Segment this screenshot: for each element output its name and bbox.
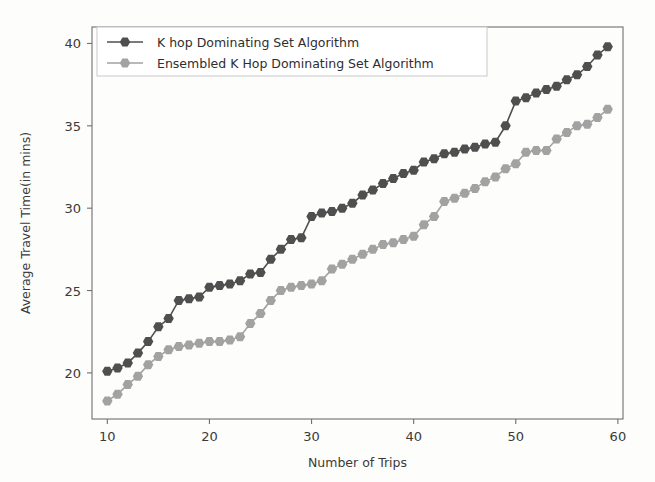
x-tick-label: 10 — [99, 429, 116, 444]
data-point-marker — [470, 143, 480, 152]
data-point-marker — [347, 255, 357, 264]
data-point-marker — [174, 342, 184, 351]
axis-ticks-group: 1020304050602025303540 — [64, 36, 626, 444]
x-tick-label: 20 — [201, 429, 218, 444]
series-1 — [102, 105, 613, 406]
data-point-marker — [337, 260, 347, 269]
data-point-marker — [235, 332, 245, 341]
data-point-marker — [449, 194, 459, 203]
data-point-marker — [174, 296, 184, 305]
data-point-marker — [225, 279, 235, 288]
x-axis-label: Number of Trips — [308, 455, 407, 470]
data-point-marker — [225, 335, 235, 344]
x-tick-label: 50 — [508, 429, 525, 444]
data-point-marker — [337, 204, 347, 213]
data-point-marker — [357, 250, 367, 259]
data-point-marker — [439, 197, 449, 206]
data-point-marker — [296, 281, 306, 290]
data-point-marker — [480, 139, 490, 148]
y-tick-label: 20 — [64, 366, 81, 381]
data-point-marker — [306, 279, 316, 288]
legend-label: K hop Dominating Set Algorithm — [157, 35, 359, 50]
data-point-marker — [449, 148, 459, 157]
data-point-marker — [398, 169, 408, 178]
y-axis-label: Average Travel Time(in mins) — [18, 132, 33, 314]
data-point-marker — [398, 235, 408, 244]
data-point-marker — [286, 283, 296, 292]
series-0 — [102, 42, 613, 375]
data-point-marker — [102, 367, 112, 376]
data-point-marker — [511, 97, 521, 106]
plot-frame — [92, 27, 623, 419]
data-point-marker — [317, 209, 327, 218]
data-point-marker — [255, 268, 265, 277]
y-tick-label: 35 — [64, 119, 81, 134]
data-point-marker — [388, 174, 398, 183]
data-point-marker — [214, 337, 224, 346]
chart-legend[interactable]: K hop Dominating Set AlgorithmEnsembled … — [97, 27, 487, 76]
legend-label: Ensembled K Hop Dominating Set Algorithm — [157, 56, 434, 71]
data-point-marker — [439, 149, 449, 158]
data-point-marker — [378, 240, 388, 249]
data-point-marker — [541, 85, 551, 94]
data-point-marker — [460, 144, 470, 153]
data-point-marker — [500, 121, 510, 130]
data-point-marker — [184, 294, 194, 303]
data-point-marker — [490, 138, 500, 147]
data-point-marker — [204, 337, 214, 346]
data-point-marker — [327, 207, 337, 216]
plot-axes — [92, 27, 623, 419]
data-point-marker — [531, 146, 541, 155]
data-point-marker — [460, 189, 470, 198]
data-point-marker — [194, 339, 204, 348]
data-point-marker — [368, 245, 378, 254]
data-point-marker — [306, 212, 316, 221]
y-tick-label: 40 — [64, 36, 81, 51]
x-tick-label: 60 — [610, 429, 627, 444]
x-tick-label: 40 — [405, 429, 422, 444]
y-tick-label: 30 — [64, 201, 81, 216]
data-point-marker — [184, 340, 194, 349]
chart-figure: 1020304050602025303540 Number of TripsAv… — [0, 0, 655, 482]
data-point-marker — [521, 93, 531, 102]
data-point-marker — [388, 238, 398, 247]
data-point-marker — [214, 281, 224, 290]
data-point-marker — [429, 154, 439, 163]
travel-time-line-chart: 1020304050602025303540 Number of TripsAv… — [0, 0, 655, 482]
data-point-marker — [531, 88, 541, 97]
y-tick-label: 25 — [64, 284, 81, 299]
data-series-group — [102, 42, 613, 405]
data-point-marker — [112, 363, 122, 372]
data-point-marker — [296, 233, 306, 242]
x-tick-label: 30 — [303, 429, 320, 444]
